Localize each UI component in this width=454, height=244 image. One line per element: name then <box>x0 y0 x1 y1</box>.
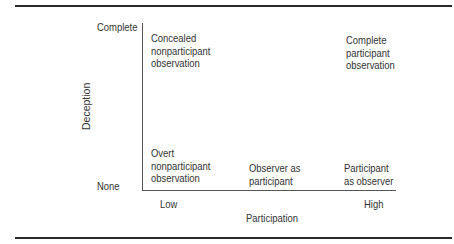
top-rule <box>15 5 452 7</box>
cell-observer-as-participant: Observer as participant <box>249 162 300 187</box>
x-axis-label: Participation <box>246 212 298 225</box>
cell-concealed-nonparticipant: Concealed nonparticipant observation <box>151 32 210 70</box>
cell-complete-participant: Complete participant observation <box>346 34 395 72</box>
cell-participant-as-observer: Participant as observer <box>344 162 393 187</box>
y-tick-none: None <box>97 180 120 193</box>
x-tick-high: High <box>364 198 383 211</box>
bottom-rule <box>15 237 452 239</box>
y-axis-line <box>142 23 143 190</box>
y-axis-label: Deception <box>80 83 92 130</box>
x-axis-line <box>142 190 396 191</box>
x-tick-low: Low <box>160 198 177 211</box>
y-tick-complete: Complete <box>97 21 137 34</box>
cell-overt-nonparticipant: Overt nonparticipant observation <box>151 147 210 185</box>
